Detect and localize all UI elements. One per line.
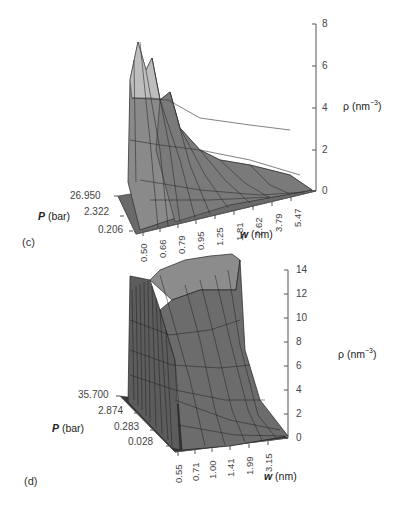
- w-tick-label: 1.00: [207, 461, 218, 480]
- w-tick-label: 0.71: [190, 463, 201, 482]
- p-tick-label: 0.283: [114, 421, 139, 432]
- w-tick-label: 1.25: [214, 228, 225, 247]
- z-tick-label: 0: [296, 432, 302, 443]
- p-tick-label: 26.950: [70, 190, 101, 201]
- p-tick-label: 35.700: [78, 389, 109, 400]
- p-axis-title: P (bar): [52, 422, 84, 434]
- z-tick-label: 8: [322, 18, 328, 29]
- w-axis-title: w (nm): [240, 228, 273, 240]
- w-tick-label: 1.41: [225, 459, 236, 478]
- z-tick-label: 6: [296, 360, 302, 371]
- z-tick-label: 2: [322, 144, 328, 155]
- z-tick-label: 4: [322, 102, 328, 113]
- z-tick-label: 12: [296, 288, 307, 299]
- panel-c: 8 6 4 2 0 ρ (nm−3) 26.950 2.322 0.206 P …: [0, 0, 398, 250]
- z-tick-label: 2: [296, 408, 302, 419]
- panel-label-c: (c): [22, 236, 35, 248]
- w-tick-label: 5.47: [292, 209, 303, 228]
- z-axis-title: ρ (nm−3): [343, 99, 381, 112]
- z-axis-title: ρ (nm−3): [338, 347, 376, 360]
- p-axis-title: P (bar): [38, 210, 70, 222]
- z-tick-label: 10: [296, 312, 307, 323]
- w-tick-label: 0.55: [173, 465, 184, 484]
- z-tick-label: 6: [322, 60, 328, 71]
- z-tick-label: 14: [296, 264, 307, 275]
- p-tick-label: 0.206: [98, 224, 123, 235]
- panel-label-d: (d): [24, 475, 37, 487]
- p-tick-label: 2.322: [84, 206, 109, 217]
- z-tick-label: 4: [296, 384, 302, 395]
- p-tick-label: 0.028: [128, 436, 153, 447]
- w-tick-label: 0.95: [195, 232, 206, 251]
- w-axis-title: w (nm): [264, 470, 297, 482]
- w-tick-label: 1.99: [244, 457, 255, 476]
- p-tick-label: 2.874: [98, 405, 123, 416]
- panel-d: 14 12 10 8 6 4 2 0 ρ (nm−3) 35.700 2.874…: [0, 250, 398, 505]
- w-tick-label: 3.79: [273, 214, 284, 233]
- z-tick-label: 8: [296, 336, 302, 347]
- z-tick-label: 0: [322, 185, 328, 196]
